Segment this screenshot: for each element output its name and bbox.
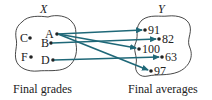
arrow-a-91	[58, 30, 142, 34]
element-c: C	[20, 32, 28, 44]
arrow-d-63	[54, 57, 159, 60]
set-x-label: X	[40, 3, 47, 15]
caption-final-grades: Final grades	[13, 83, 72, 95]
dot-97	[149, 69, 153, 73]
dot-100	[137, 47, 141, 51]
element-100: 100	[142, 43, 160, 55]
element-97: 97	[154, 65, 166, 77]
element-91: 91	[148, 24, 160, 36]
element-63: 63	[165, 51, 177, 63]
relation-diagram: X Y A B C D F 91 82 100 63 97 Final grad…	[0, 0, 212, 100]
set-y-label: Y	[158, 3, 165, 15]
dot-63	[160, 55, 164, 59]
element-f: F	[21, 51, 28, 63]
element-82: 82	[162, 33, 174, 45]
dot-f	[29, 55, 33, 59]
element-d: D	[41, 54, 50, 66]
dot-c	[28, 36, 32, 40]
element-b: B	[41, 37, 49, 49]
caption-final-averages: Final averages	[128, 83, 198, 95]
dot-82	[157, 37, 161, 41]
dot-91	[143, 28, 147, 32]
